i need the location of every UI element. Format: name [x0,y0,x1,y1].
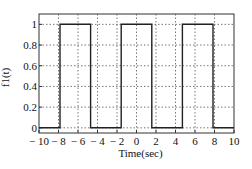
x-tick-label: − 8 [51,135,66,147]
x-tick-label: 0 [134,135,140,147]
y-tick-label: 1 [32,18,38,30]
x-tick-label: 4 [173,135,179,147]
y-tick-label: 0.2 [23,101,37,113]
y-tick-label: 0.8 [23,39,37,51]
x-axis-label: Time(sec) [118,147,163,160]
pulse-train-chart: − 10− 8− 6− 4− 20246810 00.20.40.60.81 T… [0,0,252,169]
x-tick-label: − 4 [90,135,105,147]
y-tick-label: 0 [32,122,38,134]
x-tick-label: − 6 [71,135,86,147]
x-tick-label: − 2 [110,135,124,147]
grid-lines [39,14,234,133]
y-tick-label: 0.6 [23,60,37,72]
x-tick-label: − 10 [29,135,49,147]
x-tick-label: 2 [153,135,159,147]
x-tick-label: 10 [229,135,241,147]
y-axis-label: f1(t) [0,67,12,87]
x-tick-label: 8 [212,135,218,147]
x-tick-label: 6 [192,135,198,147]
y-tick-label: 0.4 [23,80,37,92]
